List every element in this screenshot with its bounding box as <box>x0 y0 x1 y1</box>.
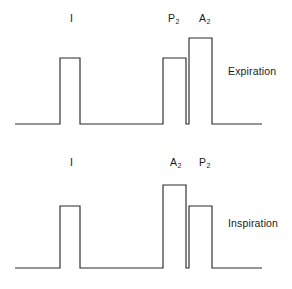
panel-inspiration: I A2 P2 Inspiration <box>0 144 292 289</box>
expiration-trace <box>15 38 262 124</box>
panel-expiration: I P2 A2 Expiration <box>0 0 292 145</box>
inspiration-trace <box>15 185 262 268</box>
label-first-heart-sound-inspiration: I <box>70 157 73 168</box>
phase-label-expiration: Expiration <box>228 66 276 77</box>
label-pulmonic-component-expiration: P2 <box>168 13 179 24</box>
label-aortic-component-expiration: A2 <box>199 13 210 24</box>
label-pulmonic-component-inspiration: P2 <box>199 157 210 168</box>
label-aortic-component-inspiration: A2 <box>170 157 181 168</box>
heart-sound-splitting-figure: I P2 A2 Expiration I A2 P2 Inspiration <box>0 0 292 289</box>
phase-label-inspiration: Inspiration <box>228 218 278 229</box>
label-first-heart-sound-expiration: I <box>70 13 73 24</box>
